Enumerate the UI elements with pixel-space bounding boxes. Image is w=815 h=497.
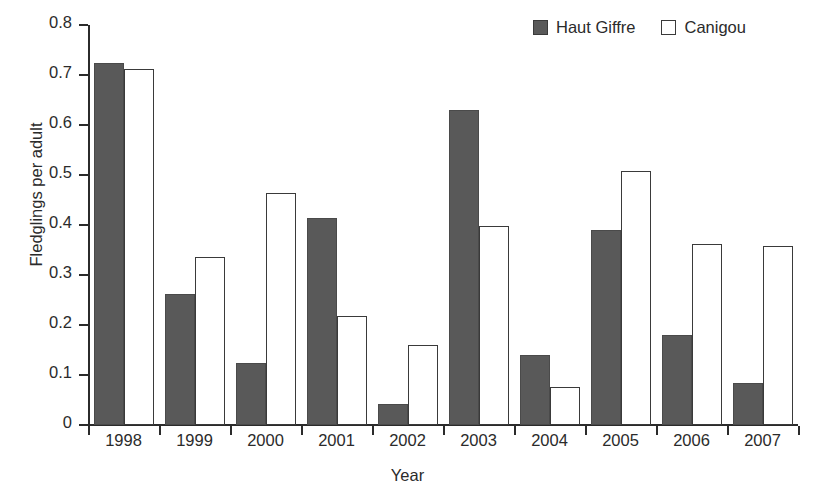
x-axis-tick bbox=[798, 426, 800, 435]
bar-canigou-2002 bbox=[408, 345, 438, 426]
y-axis-tick-label: 0.6 bbox=[49, 113, 72, 132]
bar-haut-giffre-1999 bbox=[165, 294, 195, 425]
bar-haut-giffre-2001 bbox=[307, 218, 337, 425]
y-axis-title: Fledglings per adult bbox=[27, 65, 46, 325]
bar-haut-giffre-2000 bbox=[236, 363, 266, 426]
x-axis-tick-label: 1998 bbox=[88, 431, 159, 450]
y-axis-tick-label: 0.8 bbox=[49, 13, 72, 32]
bar-haut-giffre-2006 bbox=[662, 335, 692, 425]
y-axis-tick: 0.4 bbox=[79, 224, 88, 226]
y-axis-tick: 0.5 bbox=[79, 174, 88, 176]
bar-canigou-2005 bbox=[621, 171, 651, 425]
bar-canigou-2007 bbox=[763, 246, 793, 426]
bar-canigou-2004 bbox=[550, 387, 580, 426]
bar-haut-giffre-2003 bbox=[449, 110, 479, 425]
bar-canigou-2000 bbox=[266, 193, 296, 426]
y-axis-tick-label: 0.3 bbox=[49, 263, 72, 282]
x-axis-tick-label: 1999 bbox=[159, 431, 230, 450]
y-axis-tick-label: 0.2 bbox=[49, 313, 72, 332]
bar-canigou-1999 bbox=[195, 257, 225, 425]
bar-haut-giffre-2002 bbox=[378, 404, 408, 425]
bar-haut-giffre-2005 bbox=[591, 230, 621, 425]
bar-canigou-2006 bbox=[692, 244, 722, 425]
bar-haut-giffre-1998 bbox=[94, 63, 124, 426]
y-axis-tick-label: 0.4 bbox=[49, 213, 72, 232]
y-axis-tick: 0.2 bbox=[79, 324, 88, 326]
x-axis-tick-label: 2004 bbox=[514, 431, 585, 450]
y-axis-tick: 0.8 bbox=[79, 24, 88, 26]
bar-canigou-2001 bbox=[337, 316, 367, 425]
y-axis-tick: 0.6 bbox=[79, 124, 88, 126]
bar-haut-giffre-2004 bbox=[520, 355, 550, 426]
x-axis-tick-label: 2003 bbox=[443, 431, 514, 450]
y-axis-tick: 0.1 bbox=[79, 374, 88, 376]
y-axis-tick-label: 0.7 bbox=[49, 63, 72, 82]
x-axis-tick-label: 2006 bbox=[656, 431, 727, 450]
bar-haut-giffre-2007 bbox=[733, 383, 763, 426]
y-axis-tick-label: 0 bbox=[63, 413, 72, 432]
y-axis-line bbox=[88, 25, 90, 426]
x-axis-tick-label: 2000 bbox=[230, 431, 301, 450]
y-axis-tick: 0 bbox=[79, 424, 88, 426]
bar-canigou-2003 bbox=[479, 226, 509, 425]
y-axis-tick: 0.3 bbox=[79, 274, 88, 276]
plot-area: 00.10.20.30.40.50.60.70.8 19981999200020… bbox=[88, 25, 798, 425]
x-axis-tick-label: 2001 bbox=[301, 431, 372, 450]
bar-canigou-1998 bbox=[124, 69, 154, 426]
x-axis-tick-label: 2005 bbox=[585, 431, 656, 450]
y-axis-tick-label: 0.5 bbox=[49, 163, 72, 182]
y-axis-tick-label: 0.1 bbox=[49, 363, 72, 382]
y-axis-tick: 0.7 bbox=[79, 74, 88, 76]
bar-chart-figure: Haut Giffre Canigou Fledglings per adult… bbox=[0, 0, 815, 497]
x-axis-tick-label: 2002 bbox=[372, 431, 443, 450]
x-axis-tick-label: 2007 bbox=[727, 431, 798, 450]
x-axis-title: Year bbox=[0, 466, 815, 485]
